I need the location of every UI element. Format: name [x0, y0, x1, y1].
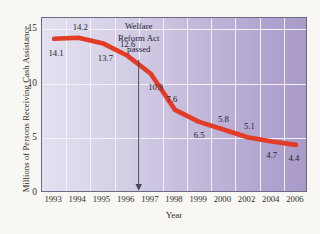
x-tick-label: 1997	[141, 194, 158, 204]
chart-figure: Millions of Persons Receiving Cash Assis…	[0, 0, 320, 234]
arrow-head	[136, 184, 142, 191]
x-tick-label: 1994	[69, 194, 86, 204]
x-axis-ticks: 1993199419951996199719981999200020022004…	[41, 194, 307, 208]
x-tick-label: 2002	[238, 194, 255, 204]
x-tick-label: 1993	[44, 194, 61, 204]
x-tick-label: 1998	[165, 194, 182, 204]
y-tick-label: 15	[28, 23, 37, 33]
y-axis-title: Millions of Persons Receiving Cash Assis…	[21, 9, 31, 209]
y-tick-label: 0	[32, 187, 37, 197]
x-tick-label: 1995	[93, 194, 110, 204]
x-tick-label: 2004	[262, 194, 279, 204]
x-tick-label: 2000	[214, 194, 231, 204]
y-tick-label: 10	[28, 78, 37, 88]
y-tick-label: 5	[32, 132, 37, 142]
x-axis-title: Year	[41, 210, 307, 220]
x-tick-label: 1996	[117, 194, 134, 204]
x-tick-label: 1999	[189, 194, 206, 204]
plot-area: 14.114.213.712.610.97.66.55.85.14.74.4 W…	[41, 17, 307, 192]
x-tick-label: 2006	[286, 194, 303, 204]
annotation-arrow	[42, 18, 307, 192]
